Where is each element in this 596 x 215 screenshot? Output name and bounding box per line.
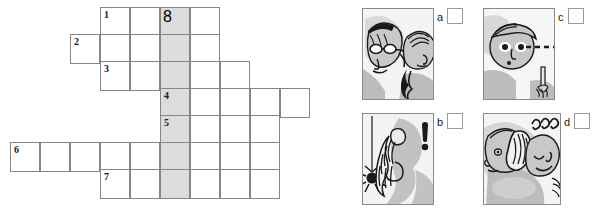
illustration-person-staring	[483, 8, 555, 100]
crossword-puzzle-grid: 12345678	[0, 0, 330, 215]
crossword-cell[interactable]	[190, 34, 220, 64]
crossword-cell[interactable]: 3	[100, 61, 130, 91]
crossword-cell[interactable]	[160, 169, 190, 199]
crossword-cell[interactable]	[190, 61, 220, 91]
crossword-cell[interactable]	[100, 34, 130, 64]
crossword-cell[interactable]	[130, 34, 160, 64]
crossword-cell[interactable]	[190, 88, 220, 118]
crossword-cell[interactable]	[220, 115, 250, 145]
crossword-cell[interactable]	[130, 169, 160, 199]
crossword-cell[interactable]	[190, 7, 220, 37]
crossword-cell[interactable]	[160, 142, 190, 172]
crossword-cell[interactable]: 1	[100, 7, 130, 37]
crossword-cell[interactable]	[220, 169, 250, 199]
crossword-clue-number: 4	[164, 90, 169, 102]
panel-answer-checkbox[interactable]	[447, 8, 463, 24]
panel-letter-label: b	[437, 115, 443, 129]
crossword-cell[interactable]: 6	[10, 142, 40, 172]
crossword-clue-number: 6	[14, 144, 19, 156]
crossword-cell[interactable]	[70, 142, 100, 172]
crossword-cell[interactable]: 2	[70, 34, 100, 64]
crossword-cell[interactable]	[250, 169, 280, 199]
crossword-cell[interactable]	[250, 142, 280, 172]
crossword-cell[interactable]	[40, 142, 70, 172]
crossword-cell[interactable]	[250, 88, 280, 118]
illustration-person-whispering	[362, 8, 434, 100]
crossword-cell[interactable]	[190, 169, 220, 199]
crossword-cell[interactable]: 4	[160, 88, 190, 118]
crossword-clue-number-vertical: 8	[163, 8, 172, 26]
crossword-cell[interactable]	[220, 142, 250, 172]
crossword-cell[interactable]	[160, 61, 190, 91]
crossword-cell[interactable]: 5	[160, 115, 190, 145]
crossword-cell[interactable]	[130, 7, 160, 37]
illustration-two-people-laughing	[483, 113, 561, 205]
panel-answer-checkbox[interactable]	[568, 8, 584, 24]
crossword-cell[interactable]	[250, 115, 280, 145]
panel-answer-checkbox[interactable]	[574, 113, 590, 129]
crossword-cell[interactable]	[130, 142, 160, 172]
crossword-cell[interactable]	[100, 142, 130, 172]
panel-letter-label: c	[558, 10, 564, 24]
crossword-clue-number: 5	[164, 117, 169, 129]
crossword-cell[interactable]: 7	[100, 169, 130, 199]
panel-letter-label: a	[437, 10, 443, 24]
crossword-cell[interactable]	[160, 34, 190, 64]
crossword-cell[interactable]	[130, 61, 160, 91]
crossword-cell[interactable]	[190, 142, 220, 172]
illustration-spider-scare	[362, 113, 434, 205]
crossword-clue-number: 1	[104, 9, 109, 21]
panel-letter-label: d	[564, 115, 570, 129]
crossword-cell[interactable]	[280, 88, 310, 118]
crossword-clue-number: 7	[104, 171, 109, 183]
crossword-cell[interactable]	[220, 88, 250, 118]
crossword-cell[interactable]	[220, 61, 250, 91]
panel-answer-checkbox[interactable]	[447, 113, 463, 129]
crossword-clue-number: 3	[104, 63, 109, 75]
crossword-cell[interactable]	[190, 115, 220, 145]
crossword-clue-number: 2	[74, 36, 79, 48]
